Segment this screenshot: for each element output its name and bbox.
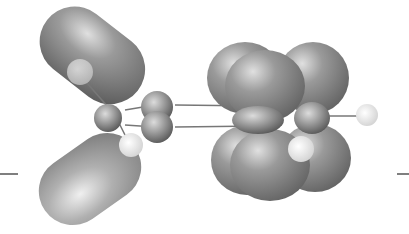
molecular-orbital-figure	[0, 0, 409, 234]
hydrogen-atom	[288, 136, 314, 162]
carbon-atom-left	[94, 104, 122, 132]
hydrogen-atom	[119, 133, 143, 157]
orbital-lobe-upper-left	[26, 0, 160, 118]
hydrogen-atom	[356, 104, 378, 126]
orbital-lobes-right	[207, 42, 351, 201]
hydrogen-atom	[67, 59, 93, 85]
orbital-lobe-center-lower	[141, 111, 173, 143]
